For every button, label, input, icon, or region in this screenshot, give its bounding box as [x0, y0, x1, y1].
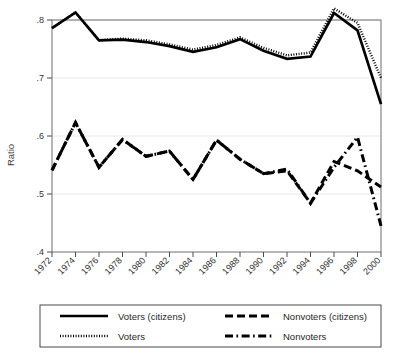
y-tick-label: .6	[36, 131, 44, 141]
y-tick-label: .5	[36, 189, 44, 199]
y-axis: .4.5.6.7.8	[36, 15, 52, 257]
chart-figure: .4.5.6.7.8 19721974197619781980198219841…	[0, 0, 419, 361]
x-tick-label: 1976	[79, 255, 100, 276]
legend-label: Nonvoters (citizens)	[283, 311, 367, 322]
x-tick-label: 1988	[220, 255, 241, 276]
legend-label: Nonvoters	[283, 331, 327, 342]
x-tick-label: 2000	[361, 255, 382, 276]
x-axis: 1972197419761978198019821984198619881990…	[32, 252, 382, 277]
x-tick-label: 1980	[126, 255, 147, 276]
y-tick-label: .7	[36, 73, 44, 83]
y-tick-label: .4	[36, 247, 44, 257]
x-tick-label: 1972	[32, 255, 53, 276]
x-tick-label: 1982	[150, 255, 171, 276]
y-axis-title: Ratio	[5, 144, 16, 166]
x-tick-label: 1986	[197, 255, 218, 276]
x-tick-label: 1974	[56, 255, 77, 276]
x-tick-label: 1984	[173, 255, 194, 276]
x-tick-label: 1998	[338, 255, 359, 276]
legend-label: Voters (citizens)	[118, 311, 186, 322]
x-tick-label: 1994	[291, 255, 312, 276]
legend-label: Voters	[118, 331, 145, 342]
x-tick-label: 1996	[314, 255, 335, 276]
x-tick-label: 1978	[103, 255, 124, 276]
ratio-line-chart: .4.5.6.7.8 19721974197619781980198219841…	[0, 0, 419, 361]
x-tick-label: 1990	[244, 255, 265, 276]
x-tick-label: 1992	[267, 255, 288, 276]
y-tick-label: .8	[36, 15, 44, 25]
